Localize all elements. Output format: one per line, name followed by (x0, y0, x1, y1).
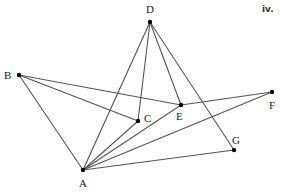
vertex-C (136, 119, 140, 123)
vertex-F (270, 90, 274, 94)
vertex-labels-group: ABCDEFG (4, 3, 275, 189)
vertex-label-C: C (144, 112, 151, 124)
vertex-G (232, 148, 236, 152)
edge-A-F (83, 92, 272, 170)
vertex-label-A: A (79, 177, 87, 189)
vertex-label-F: F (269, 99, 275, 111)
edge-B-A (19, 75, 83, 170)
edge-A-G (83, 150, 234, 170)
vertex-D (148, 20, 152, 24)
vertex-label-D: D (146, 3, 154, 15)
edge-E-F (181, 92, 272, 105)
edge-D-C (138, 22, 150, 121)
vertex-label-E: E (176, 110, 183, 122)
edge-D-E (150, 22, 181, 105)
vertex-label-G: G (232, 134, 240, 146)
edges-group (19, 22, 272, 170)
figure-label: iv. (262, 4, 274, 14)
vertex-label-B: B (4, 69, 11, 81)
vertex-B (17, 73, 21, 77)
edge-B-C (19, 75, 138, 121)
vertex-A (81, 168, 85, 172)
graph-diagram: ABCDEFG iv. (0, 0, 283, 194)
edge-B-E (19, 75, 181, 105)
edge-D-G (150, 22, 234, 150)
edge-A-C (83, 121, 138, 170)
vertex-E (179, 103, 183, 107)
vertices-group (17, 20, 274, 172)
